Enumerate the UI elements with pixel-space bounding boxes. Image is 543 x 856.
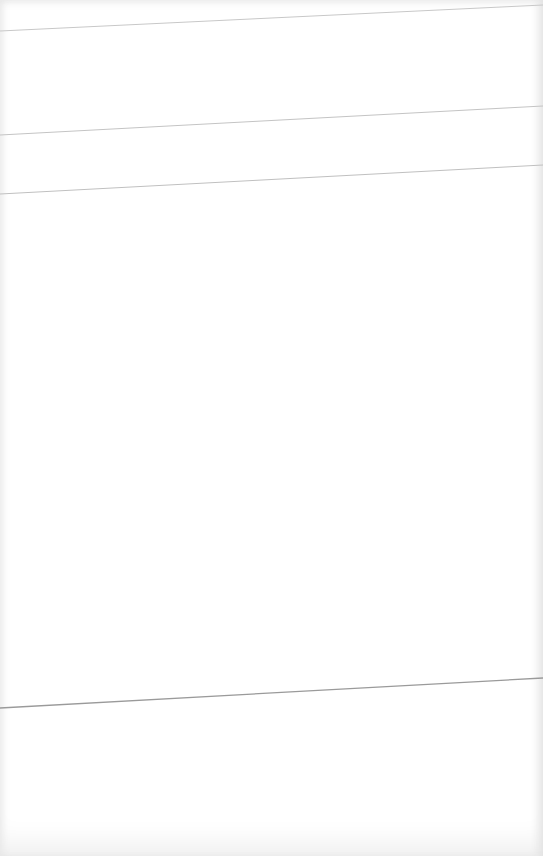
blank-paper-sheet	[0, 0, 543, 856]
rule-line-2	[0, 106, 543, 135]
rule-line-1	[0, 5, 543, 31]
rule-line-3	[0, 165, 543, 194]
rule-line-4	[0, 678, 543, 708]
ruled-lines	[0, 0, 543, 856]
